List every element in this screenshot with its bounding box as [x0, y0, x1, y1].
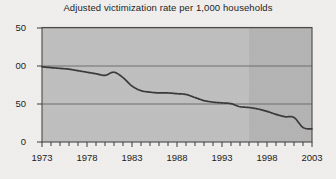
- ytick-label-100: 00: [0, 60, 26, 71]
- xtick-label-1988: 1988: [157, 152, 197, 163]
- ytick-label-150: 50: [0, 22, 26, 33]
- ytick-label-50: 50: [0, 98, 26, 109]
- shaded-band: [249, 27, 312, 142]
- chart-figure: Adjusted victimization rate per 1,000 ho…: [0, 0, 336, 179]
- xtick-label-1973: 1973: [22, 152, 62, 163]
- xtick-label-1978: 1978: [67, 152, 107, 163]
- xtick-label-1983: 1983: [112, 152, 152, 163]
- xtick-marks: [42, 142, 312, 147]
- xtick-label-2003: 2003: [292, 152, 332, 163]
- xtick-label-1998: 1998: [247, 152, 287, 163]
- ytick-label-0: 0: [0, 136, 26, 147]
- xtick-label-1993: 1993: [202, 152, 242, 163]
